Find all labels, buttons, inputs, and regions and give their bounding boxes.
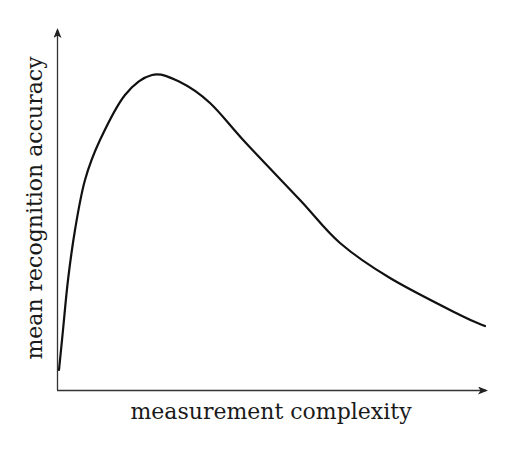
accuracy-curve <box>59 74 485 370</box>
chart: measurement complexity mean recognition … <box>0 0 510 452</box>
chart-canvas: measurement complexity mean recognition … <box>0 0 510 452</box>
y-axis-label: mean recognition accuracy <box>22 56 47 360</box>
x-axis-label: measurement complexity <box>130 399 412 424</box>
